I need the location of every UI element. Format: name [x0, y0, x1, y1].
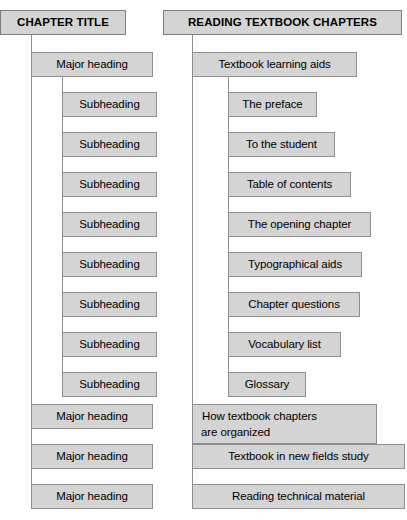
hierarchy-diagram: CHAPTER TITLE Major heading Subheading S…	[0, 0, 407, 520]
column-header-chapter-title: CHAPTER TITLE	[0, 10, 126, 35]
node-the-opening-chapter: The opening chapter	[228, 212, 371, 237]
node-subheading-5: Subheading	[62, 252, 157, 277]
column-chapter-title: CHAPTER TITLE Major heading Subheading S…	[0, 0, 163, 520]
node-major-heading-1: Major heading	[31, 52, 153, 77]
node-major-heading-2: Major heading	[31, 404, 153, 429]
node-subheading-1: Subheading	[62, 92, 157, 117]
node-textbook-learning-aids: Textbook learning aids	[192, 52, 357, 77]
node-textbook-in-new-fields-study: Textbook in new fields study	[192, 444, 405, 469]
node-subheading-3: Subheading	[62, 172, 157, 197]
node-subheading-7: Subheading	[62, 332, 157, 357]
column-reading-textbook-chapters: READING TEXTBOOK CHAPTERS Textbook learn…	[163, 0, 407, 520]
node-chapter-questions: Chapter questions	[228, 292, 360, 317]
node-how-textbook-chapters-are-organized-line2: are organized	[192, 404, 377, 444]
node-reading-technical-material: Reading technical material	[192, 484, 405, 509]
node-glossary: Glossary	[228, 372, 306, 397]
node-typographical-aids: Typographical aids	[228, 252, 362, 277]
node-subheading-8: Subheading	[62, 372, 157, 397]
column-header-reading-textbook-chapters: READING TEXTBOOK CHAPTERS	[163, 10, 402, 35]
node-table-of-contents: Table of contents	[228, 172, 351, 197]
node-to-the-student: To the student	[228, 132, 335, 157]
node-subheading-6: Subheading	[62, 292, 157, 317]
node-subheading-2: Subheading	[62, 132, 157, 157]
node-subheading-4: Subheading	[62, 212, 157, 237]
node-major-heading-4: Major heading	[31, 484, 153, 509]
node-vocabulary-list: Vocabulary list	[228, 332, 341, 357]
node-major-heading-3: Major heading	[31, 444, 153, 469]
node-line-2: are organized	[192, 425, 270, 444]
node-the-preface: The preface	[228, 92, 317, 117]
